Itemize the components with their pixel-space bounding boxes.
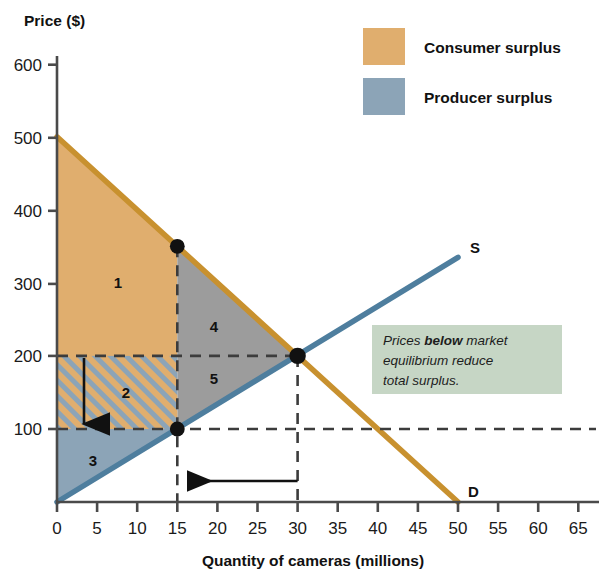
callout-line2: equilibrium reduce bbox=[383, 353, 493, 368]
demand-curve-label: D bbox=[468, 483, 479, 500]
x-axis-title: Quantity of cameras (millions) bbox=[202, 552, 424, 569]
x-tick-label: 60 bbox=[529, 519, 548, 538]
y-tick-label: 600 bbox=[14, 56, 42, 75]
x-tick-label: 50 bbox=[449, 519, 468, 538]
region-label-4: 4 bbox=[210, 318, 219, 335]
x-tick-label: 30 bbox=[288, 519, 307, 538]
x-tick-label: 5 bbox=[92, 519, 101, 538]
y-axis-ticks bbox=[48, 65, 57, 429]
x-tick-label: 15 bbox=[168, 519, 187, 538]
y-tick-label: 500 bbox=[14, 129, 42, 148]
x-tick-label: 20 bbox=[208, 519, 227, 538]
x-tick-label: 55 bbox=[489, 519, 508, 538]
y-tick-label: 200 bbox=[14, 347, 42, 366]
chart-legend: Consumer surplus Producer surplus bbox=[363, 28, 561, 115]
legend-label-consumer-surplus: Consumer surplus bbox=[424, 39, 561, 56]
callout-line1-pre: Prices bbox=[383, 333, 424, 348]
callout-box: Prices below market equilibrium reduce t… bbox=[372, 325, 562, 394]
region-label-2: 2 bbox=[122, 384, 130, 401]
y-axis-title: Price ($) bbox=[24, 12, 85, 29]
callout-line1-bold: below bbox=[424, 333, 464, 348]
producer-surplus-swatch bbox=[363, 78, 405, 115]
y-tick-label: 100 bbox=[14, 420, 42, 439]
region-consumer-surplus bbox=[57, 137, 177, 356]
point-demand-at-ceiling bbox=[170, 239, 185, 254]
legend-label-producer-surplus: Producer surplus bbox=[424, 89, 552, 106]
chart-canvas: 600 500 400 300 200 100 0 5 10 15 20 25 … bbox=[0, 0, 614, 581]
region-transfer-hatched bbox=[57, 356, 177, 429]
x-tick-label: 10 bbox=[128, 519, 147, 538]
point-equilibrium bbox=[289, 348, 305, 364]
y-tick-label: 300 bbox=[14, 275, 42, 294]
region-label-3: 3 bbox=[89, 452, 97, 469]
point-supply-at-ceiling bbox=[170, 422, 185, 437]
callout-line1-post: market bbox=[463, 333, 509, 348]
consumer-surplus-swatch bbox=[363, 28, 405, 65]
x-tick-label: 25 bbox=[248, 519, 267, 538]
callout-line3: total surplus. bbox=[383, 373, 460, 388]
svg-text:Prices below market: Prices below market bbox=[383, 333, 509, 348]
surplus-chart: 600 500 400 300 200 100 0 5 10 15 20 25 … bbox=[0, 0, 614, 581]
supply-curve-label: S bbox=[470, 239, 480, 256]
x-axis-ticks bbox=[57, 502, 578, 512]
region-label-1: 1 bbox=[114, 274, 122, 291]
x-tick-label: 0 bbox=[52, 519, 61, 538]
region-label-5: 5 bbox=[210, 370, 218, 387]
x-tick-label: 65 bbox=[569, 519, 588, 538]
y-tick-label: 400 bbox=[14, 202, 42, 221]
x-tick-label: 40 bbox=[368, 519, 387, 538]
x-tick-label: 45 bbox=[408, 519, 427, 538]
x-tick-label: 35 bbox=[328, 519, 347, 538]
